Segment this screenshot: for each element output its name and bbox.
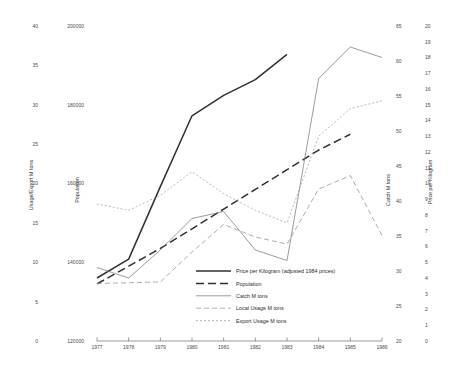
axis-tick-label: 120000 <box>67 338 84 344</box>
axis-tick-label: 2 <box>425 306 428 312</box>
chart-figure: 0510152025303540Usage/Export M tons 1200… <box>0 0 471 374</box>
x-axis-tick-label: 1978 <box>123 344 134 350</box>
axis-title: Price per Kilogram <box>427 159 433 204</box>
axis-tick-label: 140000 <box>67 259 84 265</box>
x-axis-tick-label: 1980 <box>186 344 197 350</box>
axis-tick-label: 10 <box>32 259 38 265</box>
axis-tick-label: 30 <box>396 268 402 274</box>
axis-tick-label: 0 <box>425 338 428 344</box>
x-axis-group: 1977197819791980198119821983198419851986 <box>91 338 387 351</box>
axis-tick-label: 45 <box>396 163 402 169</box>
x-axis-tick-label: 1979 <box>155 344 166 350</box>
legend-label: Catch M tons <box>236 293 268 299</box>
x-axis-tick-label: 1984 <box>313 344 324 350</box>
axis-tick-label: 60 <box>396 58 402 64</box>
x-axis-tick-label: 1977 <box>91 344 102 350</box>
axis-tick-label: 65 <box>396 23 402 29</box>
axis-tick-label: 25 <box>396 303 402 309</box>
axis-tick-label: 35 <box>396 233 402 239</box>
legend-label: Export Usage M tons <box>236 318 287 324</box>
axis-tick-label: 18 <box>425 54 431 60</box>
axis-tick-label: 180000 <box>67 102 84 108</box>
axis-tick-label: 25 <box>32 141 38 147</box>
axis-price-group: 01234567891011121314151617181920Price pe… <box>425 23 433 344</box>
axis-tick-label: 50 <box>396 128 402 134</box>
axis-tick-label: 20 <box>396 338 402 344</box>
plot-lines-group <box>97 47 382 284</box>
axis-title: Usage/Export M tons <box>28 160 34 211</box>
axis-tick-label: 5 <box>425 259 428 265</box>
axis-tick-label: 15 <box>425 102 431 108</box>
axis-usage-export-group: 0510152025303540Usage/Export M tons <box>28 23 38 344</box>
series-line <box>97 54 287 278</box>
axis-tick-label: 200000 <box>67 23 84 29</box>
axis-tick-label: 4 <box>425 275 428 281</box>
axis-tick-label: 15 <box>32 220 38 226</box>
series-line <box>97 134 350 284</box>
axis-population-group: 120000140000160000180000200000Population <box>67 23 84 344</box>
axis-tick-label: 30 <box>32 102 38 108</box>
x-axis-tick-label: 1986 <box>376 344 387 350</box>
legend-label: Population <box>236 281 261 287</box>
chart-canvas: 0510152025303540Usage/Export M tons 1200… <box>0 0 471 374</box>
axis-catch-group: 20253035404550556065Catch M tons <box>385 23 402 344</box>
x-axis-tick-label: 1983 <box>281 344 292 350</box>
axis-tick-label: 13 <box>425 133 431 139</box>
axis-tick-label: 1 <box>425 322 428 328</box>
axis-tick-label: 8 <box>425 212 428 218</box>
axis-tick-label: 16 <box>425 86 431 92</box>
axis-tick-label: 17 <box>425 70 431 76</box>
axis-tick-label: 12 <box>425 149 431 155</box>
axis-title: Catch M tons <box>385 174 391 206</box>
axis-tick-label: 40 <box>32 23 38 29</box>
axis-tick-label: 40 <box>396 198 402 204</box>
series-line <box>97 101 382 223</box>
axis-tick-label: 5 <box>35 299 38 305</box>
legend-label: Price per Kilogram (adjusted 1984 prices… <box>236 268 335 274</box>
axis-tick-label: 35 <box>32 62 38 68</box>
axis-tick-label: 20 <box>425 23 431 29</box>
axis-title: Population <box>74 177 80 202</box>
axis-tick-label: 19 <box>425 39 431 45</box>
axis-tick-label: 3 <box>425 291 428 297</box>
axis-tick-label: 0 <box>35 338 38 344</box>
axis-tick-label: 14 <box>425 117 431 123</box>
axis-tick-label: 55 <box>396 93 402 99</box>
legend-label: Local Usage M tons <box>236 305 284 311</box>
x-axis-tick-label: 1982 <box>250 344 261 350</box>
series-line <box>97 47 382 278</box>
x-axis-tick-label: 1985 <box>345 344 356 350</box>
axis-tick-label: 6 <box>425 243 428 249</box>
legend-group: Price per Kilogram (adjusted 1984 prices… <box>196 268 335 324</box>
axis-tick-label: 7 <box>425 228 428 234</box>
x-axis-tick-label: 1981 <box>218 344 229 350</box>
